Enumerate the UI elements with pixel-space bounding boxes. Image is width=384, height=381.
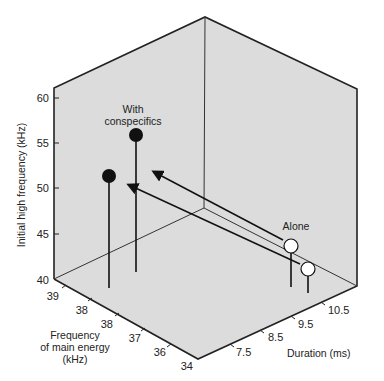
- z-tick-60: 60: [37, 92, 49, 104]
- y-tick: 9.5: [298, 318, 313, 330]
- x-tick: 36: [154, 346, 166, 358]
- svg-text:of main energy: of main energy: [40, 341, 110, 353]
- svg-text:Frequency: Frequency: [50, 329, 100, 341]
- x-tick: 34: [181, 360, 193, 372]
- z-tick-50: 50: [37, 182, 49, 194]
- y-tick: 10.5: [328, 304, 349, 316]
- chart-3d: 60 55 50 45 40 Initial high frequency (k…: [0, 0, 384, 381]
- x-tick: 38: [76, 304, 88, 316]
- x-tick: 39: [47, 290, 59, 302]
- y-tick: 8.5: [268, 331, 283, 343]
- x-tick: 37: [129, 332, 141, 344]
- x-tick: 38: [101, 318, 113, 330]
- point-alone: [284, 239, 298, 253]
- z-tick-55: 55: [37, 137, 49, 149]
- z-tick-40: 40: [37, 274, 49, 286]
- y-axis-label: Duration (ms): [287, 347, 351, 359]
- z-axis-label: Initial high frequency (kHz): [15, 123, 27, 247]
- annotation-conspecifics: conspecifics: [104, 115, 161, 127]
- svg-text:(kHz): (kHz): [62, 353, 87, 365]
- annotation-alone: Alone: [283, 220, 310, 232]
- x-axis-label: Frequency of main energy (kHz): [40, 329, 110, 365]
- annotation-with: With: [123, 103, 144, 115]
- point-with-conspecifics: [129, 128, 143, 142]
- y-tick: 7.5: [236, 346, 251, 358]
- point-alone: [301, 262, 315, 276]
- point-with-conspecifics: [102, 169, 116, 183]
- z-tick-45: 45: [37, 228, 49, 240]
